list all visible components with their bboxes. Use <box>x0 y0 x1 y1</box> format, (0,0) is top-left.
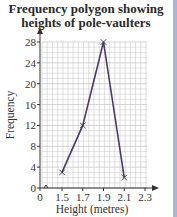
y-tick-label: 20 <box>25 78 37 90</box>
y-tick-label: 12 <box>25 119 36 131</box>
x-tick-label: 2.3 <box>138 191 152 203</box>
x-tick-label: 1.5 <box>55 191 69 203</box>
x-axis-title: Height (metres) <box>56 203 129 216</box>
chart-grid <box>42 42 147 188</box>
y-tick-label: 28 <box>25 36 37 48</box>
x-tick-label: 2.1 <box>117 191 131 203</box>
frequency-polygon-chart: 0481216202428 01.51.71.92.12.3 Frequency… <box>0 0 177 217</box>
y-tick-label: 16 <box>25 99 37 111</box>
y-axis-arrow-icon <box>37 27 43 34</box>
x-axis-arrow-icon <box>152 185 159 191</box>
x-tick-label: 1.7 <box>76 191 90 203</box>
x-tick-label: 0 <box>37 191 43 203</box>
y-axis-title: Frequency <box>4 90 17 139</box>
y-tick-label: 4 <box>31 161 37 173</box>
x-tick-labels: 01.51.71.92.12.3 <box>37 191 152 203</box>
x-tick-label: 1.9 <box>97 191 111 203</box>
page-edge-bar <box>173 0 177 217</box>
y-tick-label: 24 <box>25 57 37 69</box>
y-tick-labels: 0481216202428 <box>25 36 37 194</box>
y-tick-label: 8 <box>31 140 37 152</box>
y-tick-label: 0 <box>31 182 37 194</box>
